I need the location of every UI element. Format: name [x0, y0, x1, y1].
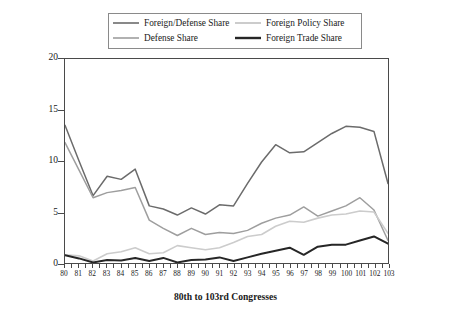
x-axis-tick-label: 98	[315, 270, 322, 277]
series-line	[65, 143, 388, 241]
x-axis-tick-mark	[135, 264, 136, 268]
legend-swatch-line-icon	[235, 19, 261, 27]
x-axis-minor-tick-mark	[354, 264, 355, 268]
x-axis-tick-label: 103	[383, 270, 394, 277]
x-axis-tick-mark	[361, 264, 362, 268]
x-axis-minor-tick-mark	[283, 264, 284, 268]
plot-area	[64, 58, 389, 264]
x-axis-tick-label: 87	[159, 270, 166, 277]
x-axis-minor-tick-mark	[85, 264, 86, 268]
x-axis-minor-tick-mark	[198, 264, 199, 268]
x-axis-tick-label: 101	[355, 270, 366, 277]
x-axis-minor-tick-mark	[142, 264, 143, 268]
x-axis-tick-mark	[92, 264, 93, 268]
x-axis-tick-label: 90	[202, 270, 209, 277]
x-axis-tick-label: 81	[74, 270, 81, 277]
x-axis-tick-label: 91	[216, 270, 223, 277]
x-axis-tick-mark	[191, 264, 192, 268]
x-axis-minor-tick-mark	[184, 264, 185, 268]
y-axis-tick-label: 15	[36, 105, 58, 115]
series-line	[65, 236, 388, 262]
legend-swatch-line-icon	[235, 34, 261, 42]
x-axis-tick-mark	[375, 264, 376, 268]
x-axis-tick-label: 94	[258, 270, 265, 277]
legend-label: Foreign Policy Share	[266, 19, 345, 28]
x-axis-tick-label: 86	[145, 270, 152, 277]
x-axis-minor-tick-mark	[311, 264, 312, 268]
x-axis-tick-mark	[64, 264, 65, 268]
x-axis-minor-tick-mark	[156, 264, 157, 268]
x-axis-tick-mark	[78, 264, 79, 268]
x-axis-tick-label: 89	[187, 270, 194, 277]
x-axis-minor-tick-mark	[368, 264, 369, 268]
x-axis-tick-mark	[234, 264, 235, 268]
x-axis-tick-label: 83	[103, 270, 110, 277]
x-axis-minor-tick-mark	[325, 264, 326, 268]
legend-label: Foreign/Defense Share	[144, 19, 229, 28]
x-axis-tick-label: 80	[60, 270, 67, 277]
x-axis-tick-mark	[389, 264, 390, 268]
x-axis-minor-tick-mark	[255, 264, 256, 268]
legend-item-foreign-trade-share: Foreign Trade Share	[235, 34, 357, 43]
x-axis-tick-label: 85	[131, 270, 138, 277]
x-axis-tick-mark	[262, 264, 263, 268]
x-axis-tick-mark	[332, 264, 333, 268]
y-axis-tick-label: 10	[36, 156, 58, 166]
legend-label: Defense Share	[144, 34, 198, 43]
x-axis-tick-mark	[318, 264, 319, 268]
x-axis-tick-mark	[205, 264, 206, 268]
x-axis-tick-label: 96	[286, 270, 293, 277]
x-axis-minor-tick-mark	[340, 264, 341, 268]
legend-item-foreign-defense-share: Foreign/Defense Share	[113, 19, 235, 28]
x-axis-minor-tick-mark	[227, 264, 228, 268]
legend-item-defense-share: Defense Share	[113, 34, 235, 43]
x-axis-minor-tick-mark	[170, 264, 171, 268]
x-axis-minor-tick-mark	[297, 264, 298, 268]
chart-legend: Foreign/Defense Share Foreign Policy Sha…	[108, 13, 362, 49]
x-axis-tick-mark	[149, 264, 150, 268]
x-axis-minor-tick-mark	[99, 264, 100, 268]
x-axis-tick-label: 97	[301, 270, 308, 277]
y-axis-tick-label: 5	[36, 208, 58, 218]
x-axis-tick-label: 93	[244, 270, 251, 277]
x-axis-tick-label: 82	[89, 270, 96, 277]
x-axis-tick-label: 92	[230, 270, 237, 277]
x-axis-minor-tick-mark	[382, 264, 383, 268]
x-axis-tick-mark	[177, 264, 178, 268]
x-axis-tick-mark	[276, 264, 277, 268]
y-axis-tick-label: 20	[36, 53, 58, 63]
x-axis-tick-label: 99	[329, 270, 336, 277]
x-axis-minor-tick-mark	[241, 264, 242, 268]
x-axis-minor-tick-mark	[269, 264, 270, 268]
legend-swatch-line-icon	[113, 19, 139, 27]
x-axis-tick-mark	[163, 264, 164, 268]
series-line	[65, 125, 388, 215]
x-axis-tick-mark	[304, 264, 305, 268]
data-lines	[65, 59, 388, 263]
legend-item-foreign-policy-share: Foreign Policy Share	[235, 19, 357, 28]
x-axis-minor-tick-mark	[71, 264, 72, 268]
x-axis-minor-tick-mark	[212, 264, 213, 268]
chart-figure: Foreign/Defense Share Foreign Policy Sha…	[0, 0, 451, 315]
legend-swatch-line-icon	[113, 34, 139, 42]
x-axis-tick-mark	[121, 264, 122, 268]
legend-label: Foreign Trade Share	[266, 34, 342, 43]
x-axis-tick-label: 95	[272, 270, 279, 277]
x-axis-tick-mark	[290, 264, 291, 268]
x-axis-tick-label: 84	[117, 270, 124, 277]
x-axis-tick-label: 88	[173, 270, 180, 277]
x-axis-tick-mark	[248, 264, 249, 268]
x-axis-tick-mark	[106, 264, 107, 268]
x-axis-tick-mark	[219, 264, 220, 268]
series-line	[65, 211, 388, 261]
x-axis-tick-mark	[347, 264, 348, 268]
x-axis-minor-tick-mark	[128, 264, 129, 268]
x-axis-title: 80th to 103rd Congresses	[0, 291, 451, 302]
x-axis-tick-label: 100	[341, 270, 352, 277]
x-axis-tick-label: 102	[369, 270, 380, 277]
x-axis-minor-tick-mark	[113, 264, 114, 268]
y-axis-tick-label: 0	[36, 259, 58, 269]
